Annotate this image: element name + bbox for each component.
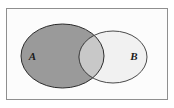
set-a-label: A	[28, 50, 36, 62]
venn-diagram-canvas: A B	[0, 0, 174, 108]
set-b-label: B	[129, 50, 137, 62]
venn-diagram-figure: A B	[0, 0, 174, 108]
